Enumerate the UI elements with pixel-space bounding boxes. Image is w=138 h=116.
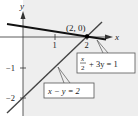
graph-figure: x y 1 2 −1 −2 (2, 0) x 2 + 3y = 1 x − y …	[0, 0, 138, 116]
y-axis-label: y	[19, 1, 24, 11]
eq2-label: x − y = 2	[47, 86, 81, 96]
intersection-point	[85, 34, 89, 38]
x-tick-label-2: 2	[85, 40, 89, 50]
y-tick-label-minus2: −2	[6, 93, 15, 103]
y-tick-label-minus1: −1	[6, 63, 15, 73]
x-axis-label: x	[114, 32, 119, 42]
x-tick-label-1: 1	[53, 40, 57, 50]
eq1-denominator: 2	[81, 64, 85, 72]
point-label: (2, 0)	[66, 23, 86, 33]
eq1-rest: + 3y = 1	[89, 59, 118, 69]
